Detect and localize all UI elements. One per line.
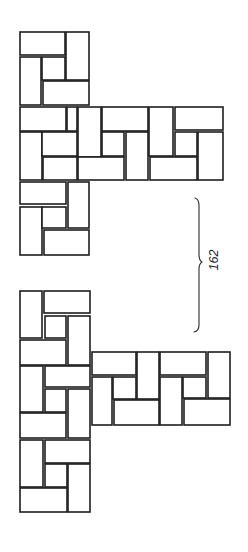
paver-brick bbox=[114, 400, 159, 425]
paver-brick bbox=[20, 440, 43, 487]
paver-brick bbox=[20, 488, 67, 512]
paver-brick bbox=[43, 81, 89, 105]
paver-brick bbox=[175, 132, 197, 156]
top-paver-assembly bbox=[20, 32, 223, 255]
paver-brick bbox=[42, 132, 77, 156]
paver-brick bbox=[68, 389, 90, 438]
paver-brick bbox=[20, 413, 66, 438]
paver-brick bbox=[102, 107, 148, 131]
paver-brick bbox=[20, 207, 42, 255]
paver-brick bbox=[20, 32, 65, 55]
paver-brick bbox=[44, 291, 90, 313]
paver-brick bbox=[92, 352, 136, 375]
paver-brick bbox=[66, 32, 89, 80]
paver-brick bbox=[20, 182, 66, 204]
paver-brick bbox=[20, 57, 41, 105]
paver-brick bbox=[20, 107, 66, 131]
paver-brick bbox=[20, 132, 42, 180]
reference-bracket bbox=[194, 198, 202, 332]
paver-brick bbox=[126, 132, 148, 180]
paver-brick bbox=[175, 107, 223, 130]
paver-brick bbox=[45, 440, 90, 463]
paver-brick bbox=[43, 157, 77, 180]
paver-brick bbox=[198, 132, 223, 180]
paver-brick bbox=[45, 366, 90, 387]
paver-brick bbox=[78, 157, 124, 180]
paver-brick bbox=[150, 157, 197, 180]
paver-brick bbox=[160, 352, 206, 375]
paver-brick bbox=[68, 464, 90, 512]
paver-brick bbox=[183, 377, 206, 398]
paver-brick bbox=[42, 57, 65, 80]
paver-brick bbox=[20, 340, 66, 365]
paver-brick bbox=[45, 316, 66, 338]
paver-brick bbox=[208, 352, 230, 398]
paver-brick bbox=[68, 182, 89, 228]
paver-brick bbox=[67, 107, 77, 131]
paver-brick bbox=[42, 207, 66, 228]
reference-numeral-label: 162 bbox=[207, 249, 221, 271]
paver-brick bbox=[45, 389, 66, 412]
paver-brick bbox=[44, 230, 89, 255]
paver-pattern-diagram bbox=[0, 0, 248, 552]
paver-brick bbox=[68, 316, 90, 365]
paver-brick bbox=[137, 352, 159, 399]
paver-brick bbox=[78, 107, 101, 157]
paver-brick bbox=[102, 132, 124, 156]
paver-brick bbox=[20, 291, 42, 338]
paver-brick bbox=[149, 107, 173, 156]
paver-brick bbox=[184, 399, 230, 425]
paver-brick bbox=[92, 377, 112, 425]
paver-brick bbox=[20, 366, 43, 412]
paver-brick bbox=[113, 377, 136, 399]
paver-brick bbox=[45, 464, 67, 487]
paver-brick bbox=[160, 377, 182, 425]
